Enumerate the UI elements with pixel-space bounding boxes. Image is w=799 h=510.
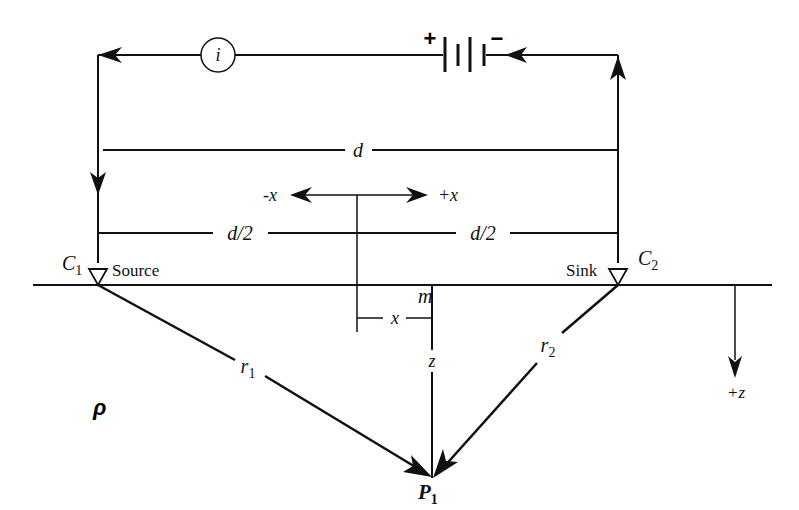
sink-label: Sink: [566, 261, 598, 280]
dimension-half-right-label: d/2: [470, 222, 496, 244]
current-label: i: [215, 45, 220, 65]
resistivity-diagram: i + − d d/2 d/2 -x +x C1 Source C2 Sink …: [0, 0, 799, 510]
r1-label: r1: [241, 355, 256, 381]
pos-x-label: +x: [438, 185, 458, 205]
midpoint-label: m: [418, 285, 432, 307]
r2-vector: [442, 285, 618, 469]
dimension-d-label: d: [353, 139, 364, 161]
r1-arrow-icon: [403, 455, 432, 477]
dimension-half-left-label: d/2: [227, 222, 253, 244]
r2-arrow-icon: [433, 449, 458, 478]
observation-point-label: P1: [417, 480, 438, 507]
offset-x-label: x: [390, 308, 399, 328]
battery-icon: [445, 37, 484, 72]
battery-plus-label: +: [424, 26, 437, 51]
current-meter: i: [201, 38, 235, 72]
source-label: Source: [112, 261, 159, 280]
source-electrode-icon: [89, 269, 107, 285]
sink-electrode-name: C2: [638, 247, 658, 273]
pos-z-label: +z: [727, 383, 745, 402]
resistivity-label: ρ: [92, 395, 106, 420]
source-electrode-name: C1: [62, 252, 82, 278]
sink-electrode-icon: [609, 269, 627, 285]
neg-x-label: -x: [263, 185, 277, 205]
depth-z-label: z: [427, 351, 435, 371]
r2-label: r2: [541, 334, 556, 360]
r1-vector: [98, 285, 422, 471]
battery-minus-label: −: [491, 26, 504, 51]
